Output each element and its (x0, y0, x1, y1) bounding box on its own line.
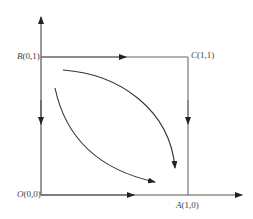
label-o: O(0,0) (17, 189, 41, 199)
trajectory-upper (63, 70, 175, 168)
label-a: A(1,0) (176, 200, 199, 210)
label-b: B(0,1) (17, 51, 40, 61)
trajectory-lower (55, 88, 155, 182)
label-c: C(1,1) (191, 50, 214, 60)
phase-diagram (0, 0, 253, 219)
